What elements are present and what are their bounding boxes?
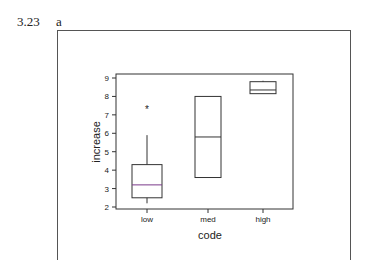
- y-axis: 23456789: [105, 74, 116, 212]
- x-tick-label-low: low: [141, 215, 153, 224]
- box-high: [250, 81, 276, 94]
- y-tick-label: 7: [105, 111, 110, 120]
- x-axis: lowmedhigh: [141, 209, 271, 224]
- iqr-box: [250, 82, 276, 94]
- plot-area: [116, 74, 293, 209]
- x-axis-label: code: [198, 229, 222, 241]
- y-tick-label: 2: [105, 203, 110, 212]
- y-tick-label: 4: [105, 166, 110, 175]
- outlier-asterisk-icon: *: [145, 104, 149, 115]
- box-med: [195, 96, 221, 177]
- x-tick-label-high: high: [255, 215, 270, 224]
- iqr-box: [132, 165, 162, 198]
- x-tick-label-med: med: [200, 215, 216, 224]
- y-tick-label: 3: [105, 185, 110, 194]
- y-tick-label: 6: [105, 129, 110, 138]
- box-low: *: [132, 104, 162, 203]
- y-tick-label: 9: [105, 74, 110, 83]
- boxes: *: [132, 81, 276, 204]
- y-tick-label: 8: [105, 92, 110, 101]
- y-axis-label: increase: [90, 121, 102, 163]
- y-tick-label: 5: [105, 148, 110, 157]
